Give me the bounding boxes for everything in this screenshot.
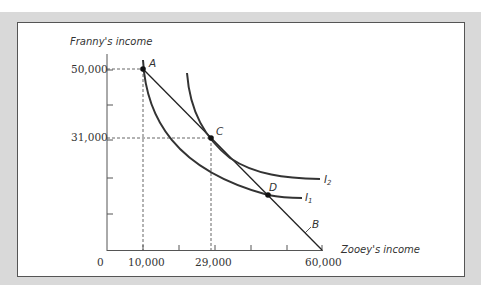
point-d-label: D: [269, 181, 277, 193]
y-ticks: [107, 70, 113, 214]
x-tick-29000: 29,000: [195, 256, 232, 268]
x-ticks: [143, 245, 322, 250]
x-tick-10000: 10,000: [128, 256, 165, 268]
x-tick-60000: 60,000: [305, 256, 342, 268]
point-c-marker: [208, 135, 214, 141]
x-tick-0: 0: [97, 256, 104, 268]
point-c-label: C: [216, 125, 223, 137]
y-tick-31000: 31,000: [71, 131, 108, 143]
budget-line-b-label: B: [312, 218, 319, 230]
point-a-label: A: [149, 57, 156, 69]
curve-i1-subscript: 1: [308, 197, 312, 205]
point-a-marker: [140, 66, 146, 72]
dashed-guides: [107, 69, 211, 250]
curve-i2-label: I2: [324, 173, 332, 187]
indifference-curve-i2: [187, 73, 320, 179]
curve-i2-subscript: 2: [327, 179, 331, 187]
y-tick-50000: 50,000: [71, 63, 108, 75]
x-axis-title: Zooey's income: [341, 244, 420, 255]
curve-i1-label: I1: [305, 191, 313, 205]
budget-line-b-leader: [305, 227, 311, 233]
point-d-marker: [265, 192, 271, 198]
y-axis-title: Franny's income: [70, 36, 152, 47]
